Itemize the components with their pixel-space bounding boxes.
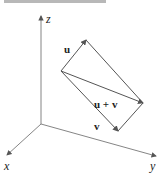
parallelogram bbox=[61, 40, 143, 131]
z-axis-label: z bbox=[46, 13, 51, 25]
side-u-to-sum bbox=[86, 40, 143, 103]
y-axis-label: y bbox=[150, 160, 155, 172]
side-v-to-sum bbox=[118, 103, 143, 131]
coordinate-axes bbox=[7, 16, 156, 156]
vector-v-label: v bbox=[94, 121, 100, 132]
x-axis bbox=[7, 124, 41, 155]
vector-u-label: u bbox=[64, 44, 70, 55]
vector-diagram bbox=[0, 0, 163, 181]
x-axis-label: x bbox=[4, 160, 9, 172]
vector-sum-label: u + v bbox=[94, 99, 117, 110]
